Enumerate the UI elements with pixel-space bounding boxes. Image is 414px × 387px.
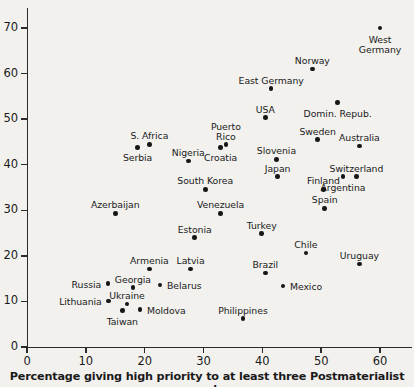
- data-point-label: Latvia: [177, 256, 205, 266]
- y-axis-line: [27, 8, 28, 348]
- data-point[interactable]: [274, 157, 279, 162]
- y-tick-mark: [21, 164, 27, 165]
- y-tick-label: 20: [0, 250, 18, 262]
- data-point[interactable]: [113, 211, 118, 216]
- data-point[interactable]: [322, 206, 327, 211]
- data-point-label: Russia: [72, 280, 102, 290]
- data-point-label: S. Africa: [130, 131, 168, 141]
- data-point[interactable]: [304, 251, 309, 256]
- data-point[interactable]: [259, 231, 264, 236]
- data-point[interactable]: [158, 283, 163, 288]
- data-point-label: Norway: [295, 56, 330, 66]
- y-tick-mark: [21, 301, 27, 302]
- data-point-label: Slovenia: [257, 146, 296, 156]
- x-tick-mark: [26, 347, 27, 353]
- y-tick-mark: [21, 255, 27, 256]
- data-point[interactable]: [218, 145, 223, 150]
- data-point[interactable]: [147, 267, 152, 272]
- data-point[interactable]: [203, 187, 208, 192]
- data-point-label: West Germany: [359, 35, 401, 54]
- data-point-label: Belarus: [167, 281, 202, 291]
- data-point[interactable]: [310, 67, 315, 72]
- x-tick-label: 10: [71, 356, 101, 368]
- data-point-label: Sweden: [299, 127, 335, 137]
- data-point-label: Spain: [312, 195, 338, 205]
- y-tick-label: 60: [0, 68, 18, 80]
- data-point-label: Georgia: [115, 275, 151, 285]
- data-point-label: Domin. Repub.: [304, 109, 372, 119]
- data-point-label: Estonia: [178, 225, 212, 235]
- data-point-label: Puerto Rico: [211, 122, 241, 141]
- x-tick-label: 0: [12, 356, 42, 368]
- data-point[interactable]: [147, 142, 152, 147]
- data-point[interactable]: [125, 302, 130, 307]
- data-point[interactable]: [120, 308, 125, 313]
- y-tick-mark: [21, 27, 27, 28]
- x-tick-label: 30: [189, 356, 219, 368]
- x-tick-label: 50: [306, 356, 336, 368]
- data-point[interactable]: [188, 267, 193, 272]
- data-point[interactable]: [275, 174, 280, 179]
- data-point[interactable]: [357, 262, 362, 267]
- y-tick-label: 40: [0, 159, 18, 171]
- data-point-label: Finland: [307, 176, 340, 186]
- data-point-label: Mexico: [290, 282, 322, 292]
- data-point-label: Armenia: [130, 256, 169, 266]
- data-point[interactable]: [357, 144, 362, 149]
- data-point[interactable]: [241, 316, 246, 321]
- y-tick-label: 70: [0, 22, 18, 34]
- data-point[interactable]: [341, 174, 346, 179]
- data-point-label: Nigeria: [172, 148, 205, 158]
- data-point[interactable]: [315, 137, 320, 142]
- data-point[interactable]: [135, 145, 140, 150]
- data-point[interactable]: [218, 211, 223, 216]
- data-point-label: Chile: [294, 240, 317, 250]
- data-point-label: Ukraine: [109, 291, 145, 301]
- y-tick-mark: [21, 210, 27, 211]
- data-point[interactable]: [378, 26, 383, 31]
- data-point-label: South Korea: [177, 176, 233, 186]
- data-point-label: Brazil: [252, 260, 278, 270]
- data-point-label: Lithuania: [59, 297, 102, 307]
- y-tick-label: 0: [0, 341, 18, 353]
- y-tick-mark: [21, 73, 27, 74]
- data-point-label: Serbia: [123, 153, 152, 163]
- scatter-plot-figure: 010203040506070 0102030405060 West Germa…: [0, 0, 414, 387]
- data-point[interactable]: [354, 174, 359, 179]
- data-point[interactable]: [263, 115, 268, 120]
- y-tick-label: 10: [0, 295, 18, 307]
- x-tick-mark: [379, 347, 380, 353]
- data-point[interactable]: [106, 281, 111, 286]
- y-tick-label: 30: [0, 204, 18, 216]
- data-point-label: Japan: [265, 164, 291, 174]
- data-point[interactable]: [224, 142, 229, 147]
- x-axis-title: Percentage giving high priority to at le…: [0, 370, 414, 387]
- data-point-label: Venezuela: [197, 200, 244, 210]
- data-point-label: Taiwan: [107, 317, 138, 327]
- data-point-label: Turkey: [247, 221, 277, 231]
- data-point[interactable]: [263, 271, 268, 276]
- data-point[interactable]: [321, 187, 326, 192]
- data-point[interactable]: [106, 299, 111, 304]
- x-tick-mark: [262, 347, 263, 353]
- data-point[interactable]: [269, 86, 274, 91]
- x-tick-mark: [203, 347, 204, 353]
- x-tick-mark: [320, 347, 321, 353]
- data-point[interactable]: [281, 284, 286, 289]
- x-tick-label: 40: [247, 356, 277, 368]
- data-point[interactable]: [192, 235, 197, 240]
- data-point[interactable]: [335, 100, 340, 105]
- x-tick-label: 20: [130, 356, 160, 368]
- data-point[interactable]: [138, 307, 143, 312]
- y-tick-label: 50: [0, 113, 18, 125]
- data-point[interactable]: [186, 159, 191, 164]
- data-point-label: Philippines: [218, 306, 268, 316]
- data-point-label: USA: [256, 105, 275, 115]
- data-point-label: Australia: [339, 133, 380, 143]
- x-tick-mark: [144, 347, 145, 353]
- data-point-label: East Germany: [239, 76, 304, 86]
- data-point-label: Azerbaijan: [91, 200, 140, 210]
- y-tick-mark: [21, 118, 27, 119]
- data-point-label: Moldova: [147, 306, 186, 316]
- data-point-label: Switzerland: [330, 164, 384, 174]
